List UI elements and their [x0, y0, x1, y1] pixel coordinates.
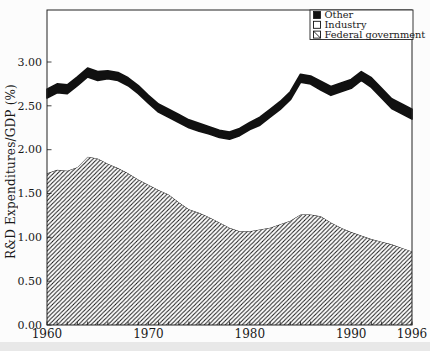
legend-swatch-black-icon	[314, 12, 321, 19]
rd-gdp-chart-figure: 0.000.501.001.502.002.503.00196019701980…	[0, 0, 430, 351]
stacked-area-chart: 0.000.501.001.502.002.503.00196019701980…	[0, 0, 430, 351]
y-axis-title: R&D Expenditures/GDP (%)	[0, 4, 22, 339]
x-tick-label: 1960	[32, 327, 63, 341]
y-axis-title-text: R&D Expenditures/GDP (%)	[4, 84, 18, 259]
scan-edge-artifact	[0, 342, 430, 351]
x-tick-label: 1996	[397, 327, 428, 341]
legend-label: Federal government	[325, 29, 426, 40]
x-tick-label: 1970	[133, 327, 164, 341]
legend-swatch-white-icon	[314, 21, 321, 28]
x-tick-label: 1990	[336, 327, 367, 341]
x-tick-label: 1980	[235, 327, 266, 341]
chart-legend: OtherIndustryFederal government	[310, 9, 425, 40]
